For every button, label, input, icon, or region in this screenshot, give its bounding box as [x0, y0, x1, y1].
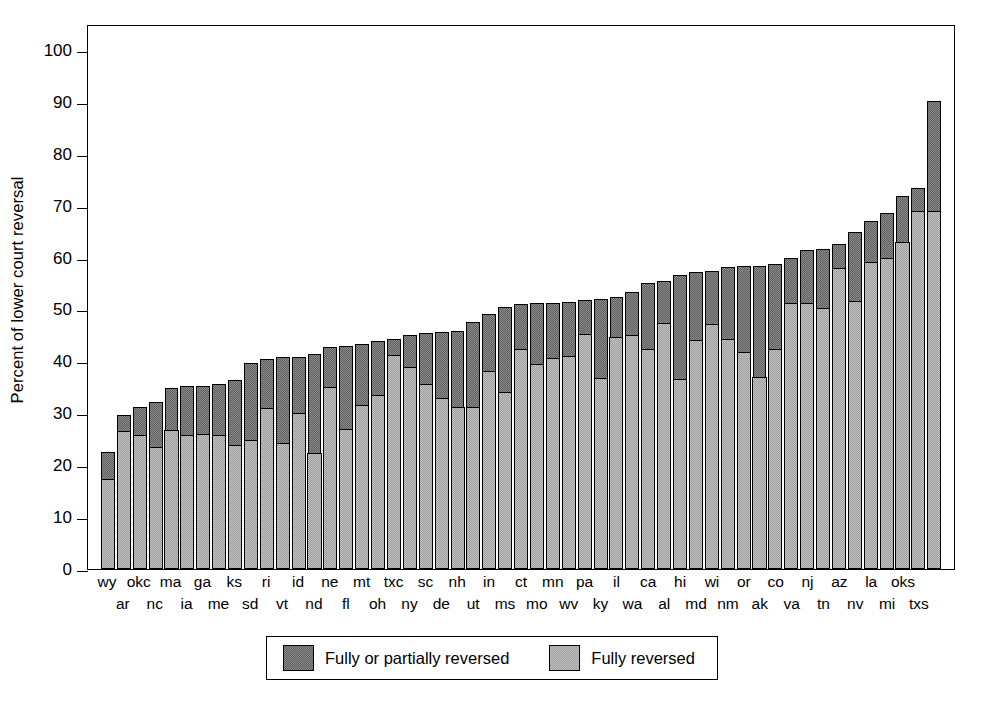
bar: [435, 332, 449, 569]
x-axis-tick-label-text: oh: [369, 596, 386, 612]
y-axis-tick-label: 90: [10, 94, 72, 111]
x-axis-tick-label-text: sc: [418, 574, 434, 590]
chart-figure: Percent of lower court reversal 01020304…: [0, 0, 981, 709]
x-axis-tick-label-or: or: [737, 572, 751, 620]
plot-area: [88, 26, 954, 569]
x-axis-tick-label-va: va: [785, 572, 799, 620]
bar-fully-reversed-segment: [419, 384, 433, 569]
x-axis-tick-label-text: nj: [801, 574, 813, 590]
x-axis-tick-label-text: il: [613, 574, 620, 590]
bar-fully-reversed-segment: [609, 337, 623, 570]
bar-fully-reversed-segment: [276, 443, 290, 569]
bar-fully-reversed-segment: [752, 377, 766, 570]
bar-fully-reversed-segment: [641, 349, 655, 569]
x-axis-tick-label: [928, 572, 942, 620]
x-axis-tick-label-text: ms: [495, 596, 516, 612]
bar: [292, 357, 306, 569]
bar: [180, 386, 194, 569]
bar: [101, 452, 115, 569]
legend-item[interactable]: Fully reversed: [549, 645, 695, 671]
bar-fully-reversed-segment: [323, 387, 337, 569]
x-axis-tick-label-text: md: [685, 596, 707, 612]
x-axis-tick-label-az: az: [832, 572, 846, 620]
x-axis-tick-label-text: ky: [593, 596, 609, 612]
bar-fully-reversed-segment: [482, 371, 496, 569]
x-axis-tick-label-ks: ks: [227, 572, 241, 620]
x-axis-tick-label-nd: nd: [307, 572, 321, 620]
x-axis-tick-label-text: al: [658, 596, 670, 612]
x-axis-tick-label-text: nh: [449, 574, 466, 590]
bar: [927, 101, 941, 569]
bar-fully-reversed-segment: [816, 308, 830, 569]
bar-fully-reversed-segment: [451, 407, 465, 569]
x-axis-tick-label-md: md: [689, 572, 703, 620]
x-axis-tick-label-wv: wv: [562, 572, 576, 620]
bar-fully-reversed-segment: [911, 211, 925, 569]
bar: [165, 388, 179, 569]
bar-fully-reversed-segment: [721, 339, 735, 569]
x-axis-tick-label-text: ct: [515, 574, 527, 590]
legend-item[interactable]: Fully or partially reversed: [283, 645, 509, 671]
bar-series: [88, 26, 954, 569]
x-axis-tick-label-text: hi: [674, 574, 686, 590]
bar-fully-reversed-segment: [133, 435, 147, 569]
bar: [276, 357, 290, 569]
x-axis-tick-label-co: co: [769, 572, 783, 620]
bar-fully-reversed-segment: [117, 431, 131, 570]
x-axis-tick-label-text: va: [783, 596, 799, 612]
x-axis-tick-label-text: ny: [401, 596, 417, 612]
y-axis-tick: [77, 52, 88, 53]
legend-label: Fully or partially reversed: [325, 649, 509, 668]
x-axis-tick-label-text: ks: [227, 574, 243, 590]
bar-fully-reversed-segment: [927, 211, 941, 569]
bar-fully-reversed-segment: [800, 303, 814, 569]
x-axis-tick-labels: wyarokcncmaiagamekssdrivtidndneflmtohtxc…: [87, 572, 955, 620]
bar: [784, 258, 798, 569]
bar: [705, 271, 719, 569]
x-axis-tick-label-me: me: [211, 572, 225, 620]
x-axis-tick-label-ak: ak: [753, 572, 767, 620]
x-axis-tick-label-text: mi: [879, 596, 895, 612]
plot-frame: [87, 25, 955, 570]
x-axis-tick-label-text: la: [865, 574, 877, 590]
bar: [562, 302, 576, 569]
bar-fully-reversed-segment: [689, 340, 703, 569]
y-axis-tick-label: 100: [10, 42, 72, 59]
bar: [864, 221, 878, 569]
x-axis-tick-label-la: la: [864, 572, 878, 620]
bar-fully-reversed-segment: [355, 405, 369, 569]
bar: [530, 303, 544, 569]
x-axis-tick-label-ms: ms: [498, 572, 512, 620]
bar: [482, 314, 496, 569]
x-axis-tick-label-text: de: [433, 596, 450, 612]
x-axis-tick-label-mt: mt: [355, 572, 369, 620]
bar: [816, 249, 830, 569]
x-axis-tick-label-sc: sc: [418, 572, 432, 620]
y-axis-tick: [77, 415, 88, 416]
x-axis-tick-label-text: tn: [817, 596, 830, 612]
bar-fully-reversed-segment: [164, 430, 178, 569]
bar-fully-reversed-segment: [784, 303, 798, 569]
x-axis-tick-label-nm: nm: [721, 572, 735, 620]
bar-fully-reversed-segment: [594, 378, 608, 570]
bar: [641, 283, 655, 569]
legend-swatch-light: [549, 645, 580, 671]
x-axis-tick-label-nj: nj: [801, 572, 815, 620]
x-axis-tick-label-text: wi: [705, 574, 720, 590]
x-axis-tick-label-text: id: [292, 574, 304, 590]
x-axis-tick-label-text: nm: [717, 596, 739, 612]
x-axis-tick-label-oh: oh: [371, 572, 385, 620]
bar-fully-reversed-segment: [848, 301, 862, 569]
bar-fully-reversed-segment: [895, 242, 909, 569]
y-axis-tick: [77, 467, 88, 468]
x-axis-tick-label-ne: ne: [323, 572, 337, 620]
x-axis-tick-label-text: co: [767, 574, 783, 590]
bar: [546, 303, 560, 569]
y-axis-tick-label: 80: [10, 146, 72, 163]
legend-swatch-dark: [283, 645, 314, 671]
x-axis-tick-label-text: wv: [559, 596, 578, 612]
bar-fully-reversed-segment: [673, 379, 687, 569]
bar-fully-reversed-segment: [498, 392, 512, 570]
bar: [689, 272, 703, 569]
bar-fully-reversed-segment: [768, 349, 782, 569]
